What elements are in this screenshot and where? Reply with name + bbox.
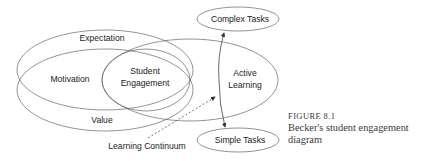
expectation-label: Expectation — [80, 33, 125, 43]
student-engagement-label-1: Student — [130, 66, 160, 76]
motivation-label: Motivation — [50, 74, 89, 84]
figure-number: FIGURE 8.1 — [288, 111, 428, 122]
complex-tasks-label: Complex Tasks — [211, 14, 269, 24]
active-learning-label-2: Learning — [228, 80, 262, 90]
figure-caption: FIGURE 8.1 Becker's student engagement d… — [288, 111, 428, 146]
simple-tasks-label: Simple Tasks — [215, 135, 265, 145]
figure-caption-text: Becker's student engagement diagram — [288, 122, 428, 146]
learning-continuum-pointer — [148, 97, 215, 138]
value-label: Value — [91, 115, 113, 125]
active-learning-label-1: Active — [233, 68, 257, 78]
continuum-arrow-up — [219, 33, 224, 80]
student-engagement-label-2: Engagement — [121, 78, 170, 88]
continuum-arrow-down — [219, 80, 225, 127]
learning-continuum-label: Learning Continuum — [108, 141, 185, 151]
